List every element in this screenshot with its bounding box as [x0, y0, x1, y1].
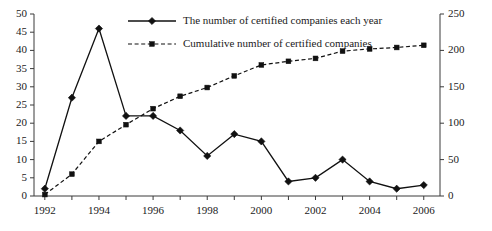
x-axis-tick-label: 2004: [359, 204, 382, 216]
x-axis-tick-label: 2000: [250, 204, 273, 216]
data-point-marker: [286, 59, 291, 64]
data-point-marker: [394, 45, 399, 50]
right-axis-tick-label: 200: [448, 43, 465, 55]
chart-container: 05101520253035404550 050100150200250 199…: [0, 0, 492, 231]
left-axis-tick-label: 0: [22, 189, 28, 201]
data-point-marker: [124, 122, 129, 127]
data-point-marker: [42, 192, 47, 197]
left-axis-tick-label: 20: [16, 116, 28, 128]
right-axis-tick-label: 250: [448, 7, 465, 19]
data-point-marker: [340, 49, 345, 54]
x-axis-tick-label: 1996: [142, 204, 165, 216]
right-axis-tick-label: 0: [448, 189, 454, 201]
legend-item-label: Cumulative number of certified companies: [183, 37, 372, 49]
right-axis-tick-label: 150: [448, 80, 465, 92]
left-axis-tick-label: 45: [16, 25, 28, 37]
left-axis-tick-label: 25: [16, 98, 28, 110]
left-axis-tick-label: 30: [16, 80, 28, 92]
legend-item-label: The number of certified companies each y…: [183, 14, 382, 26]
left-axis-tick-label: 50: [16, 7, 28, 19]
data-point-marker: [97, 139, 102, 144]
data-point-marker: [151, 106, 156, 111]
x-axis-tick-label: 1992: [34, 204, 56, 216]
x-axis-tick-label: 2006: [413, 204, 436, 216]
left-axis-tick-label: 5: [22, 171, 28, 183]
data-point-marker: [178, 94, 183, 99]
left-axis-tick-label: 40: [16, 43, 28, 55]
data-point-marker: [232, 73, 237, 78]
left-axis-tick-label: 35: [16, 62, 28, 74]
right-axis-tick-label: 100: [448, 116, 465, 128]
data-point-marker: [69, 172, 74, 177]
data-point-marker: [259, 63, 264, 68]
right-axis-tick-label: 50: [448, 153, 460, 165]
left-axis-tick-label: 15: [16, 134, 28, 146]
dual-axis-line-chart: 05101520253035404550 050100150200250 199…: [0, 0, 492, 231]
x-axis-tick-label: 1998: [196, 204, 219, 216]
x-axis-tick-label: 1994: [88, 204, 111, 216]
data-point-marker: [421, 43, 426, 48]
data-point-marker: [313, 56, 318, 61]
x-axis-tick-label: 2002: [304, 204, 326, 216]
data-point-marker: [205, 85, 210, 90]
left-axis-tick-label: 10: [16, 153, 28, 165]
legend-square-marker-icon: [150, 42, 155, 47]
